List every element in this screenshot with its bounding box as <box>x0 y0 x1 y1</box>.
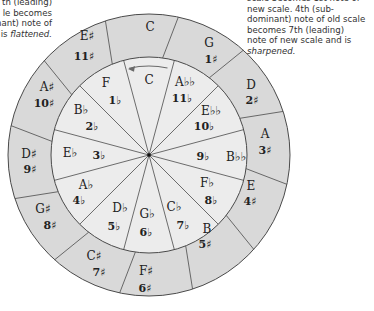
outer-accidental-count: 4♯ <box>244 195 257 208</box>
outer-key-label: A♯ <box>39 80 54 94</box>
outer-accidental-count: 7♯ <box>93 266 106 279</box>
outer-key-label: E <box>247 179 256 193</box>
inner-accidental-count: 9♭ <box>197 150 210 163</box>
inner-accidental-count: 6♭ <box>140 226 153 239</box>
outer-key-label: E♯ <box>80 29 95 43</box>
inner-accidental-count: 4♭ <box>73 194 86 207</box>
outer-accidental-count: 10♯ <box>34 97 55 110</box>
inner-accidental-count: 2♭ <box>86 120 99 133</box>
outer-key-label: D <box>246 78 256 92</box>
inner-accidental-count: 11♭ <box>172 92 193 105</box>
inner-accidental-count: 7♭ <box>177 219 190 232</box>
outer-accidental-count: 8♯ <box>44 219 57 232</box>
outer-key-label: B <box>203 222 212 236</box>
outer-accidental-count: 3♯ <box>259 144 272 157</box>
outer-accidental-count: 6♯ <box>139 282 152 295</box>
inner-key-label: G♭ <box>139 207 154 221</box>
inner-key-label: F <box>102 76 110 90</box>
inner-key-label: B♭ <box>74 103 88 117</box>
outer-key-label: A <box>260 127 270 141</box>
outer-key-label: C♯ <box>87 249 102 263</box>
inner-key-label: C <box>144 73 153 87</box>
inner-accidental-count: 1♭ <box>109 94 122 107</box>
outer-accidental-count: 5♯ <box>199 238 212 251</box>
outer-key-label: G♯ <box>35 202 50 216</box>
inner-accidental-count: 3♭ <box>93 149 106 162</box>
inner-accidental-count: 5♭ <box>108 220 121 233</box>
inner-accidental-count: 8♭ <box>205 194 218 207</box>
inner-key-label: A♭ <box>78 178 93 192</box>
outer-accidental-count: 9♯ <box>24 163 37 176</box>
outer-accidental-count: 1♯ <box>205 53 218 66</box>
outer-key-label: G <box>204 36 214 50</box>
inner-key-label: F♭ <box>200 176 214 190</box>
inner-key-label: E♭♭ <box>201 104 221 118</box>
outer-key-label: D♯ <box>21 147 36 161</box>
circle-of-fifths: CG1♯D2♯A3♯E4♯B5♯F♯6♯C♯7♯G♯8♯D♯9♯A♯10♯E♯1… <box>0 0 374 311</box>
inner-key-label: B♭♭ <box>226 150 246 164</box>
outer-key-label: F♯ <box>139 264 153 278</box>
inner-accidental-count: 10♭ <box>194 120 215 133</box>
inner-key-label: C♭ <box>167 200 182 214</box>
inner-key-label: E♭ <box>63 146 77 160</box>
outer-accidental-count: 2♯ <box>246 94 259 107</box>
outer-accidental-count: 11♯ <box>74 50 95 63</box>
center-point <box>147 153 151 157</box>
outer-key-label: C <box>145 20 154 34</box>
inner-key-label: D♭ <box>112 201 127 215</box>
inner-key-label: A♭♭ <box>174 75 195 89</box>
